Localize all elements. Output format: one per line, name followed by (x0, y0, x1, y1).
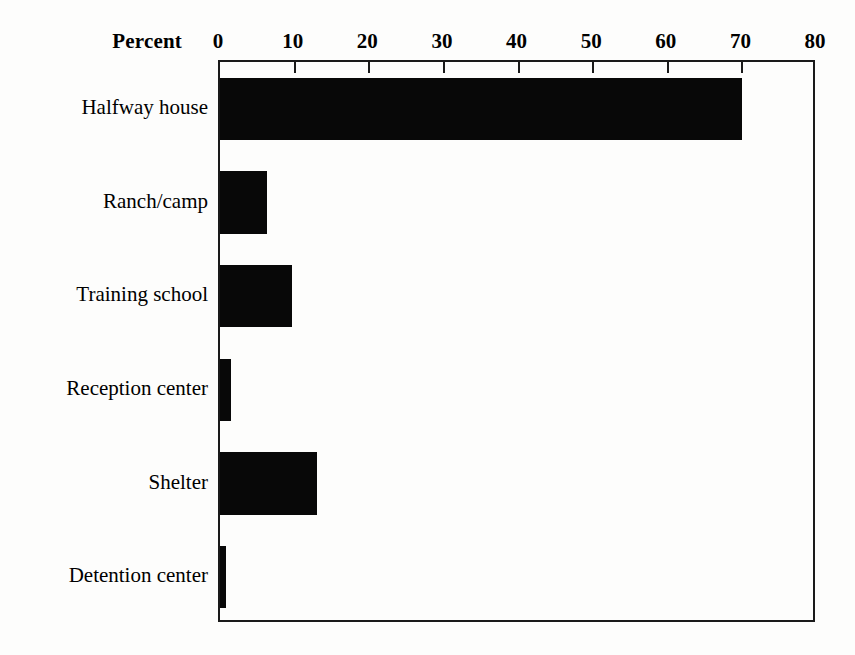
y-axis-category-labels: Halfway houseRanch/campTraining schoolRe… (0, 60, 208, 622)
x-tick-label-50: 50 (581, 29, 602, 54)
category-label-reception-center: Reception center (0, 375, 208, 400)
x-tick-label-60: 60 (655, 29, 676, 54)
category-label-halfway-house: Halfway house (0, 94, 208, 119)
bar-halfway-house (220, 78, 742, 140)
x-tick-label-80: 80 (805, 29, 826, 54)
bars-layer (220, 62, 813, 620)
x-tick-label-30: 30 (431, 29, 452, 54)
bar-reception-center (220, 359, 231, 421)
x-tick-label-10: 10 (282, 29, 303, 54)
x-tick-label-40: 40 (506, 29, 527, 54)
bar-ranch-camp (220, 171, 267, 233)
category-label-shelter: Shelter (0, 469, 208, 494)
x-axis-title: Percent (82, 29, 182, 54)
x-tick-label-70: 70 (730, 29, 751, 54)
x-axis-tick-labels: 01020304050607080 (218, 29, 815, 55)
plot-area (218, 60, 815, 622)
bar-shelter (220, 452, 317, 514)
category-label-ranch-camp: Ranch/camp (0, 188, 208, 213)
bar-chart-figure: Percent 01020304050607080 Halfway houseR… (0, 0, 855, 655)
x-tick-label-0: 0 (213, 29, 224, 54)
category-label-training-school: Training school (0, 282, 208, 307)
bar-training-school (220, 265, 292, 327)
category-label-detention-center: Detention center (0, 563, 208, 588)
bar-detention-center (220, 546, 226, 608)
x-tick-label-20: 20 (357, 29, 378, 54)
